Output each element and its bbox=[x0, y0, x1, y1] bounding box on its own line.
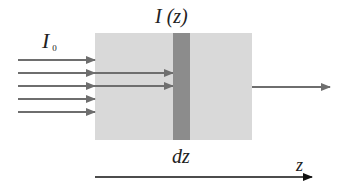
incident-intensity-subscript: 0 bbox=[52, 43, 57, 53]
incident-beams bbox=[18, 60, 95, 112]
slab-dz bbox=[173, 33, 190, 140]
z-axis-label: z bbox=[296, 156, 303, 174]
local-intensity-label: I (z) bbox=[155, 6, 188, 26]
incident-intensity-label: I0 bbox=[42, 30, 57, 53]
slab-thickness-label: dz bbox=[172, 146, 190, 166]
incident-intensity-symbol: I bbox=[42, 28, 49, 53]
